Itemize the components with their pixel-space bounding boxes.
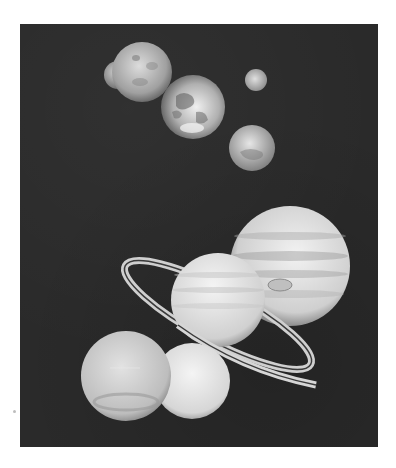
planet-earth [161, 75, 225, 139]
planet-moon [245, 69, 267, 91]
planet-neptune [81, 331, 171, 421]
planet-mars [229, 125, 275, 171]
planets-illustration [0, 0, 396, 468]
planet-venus [112, 42, 172, 102]
